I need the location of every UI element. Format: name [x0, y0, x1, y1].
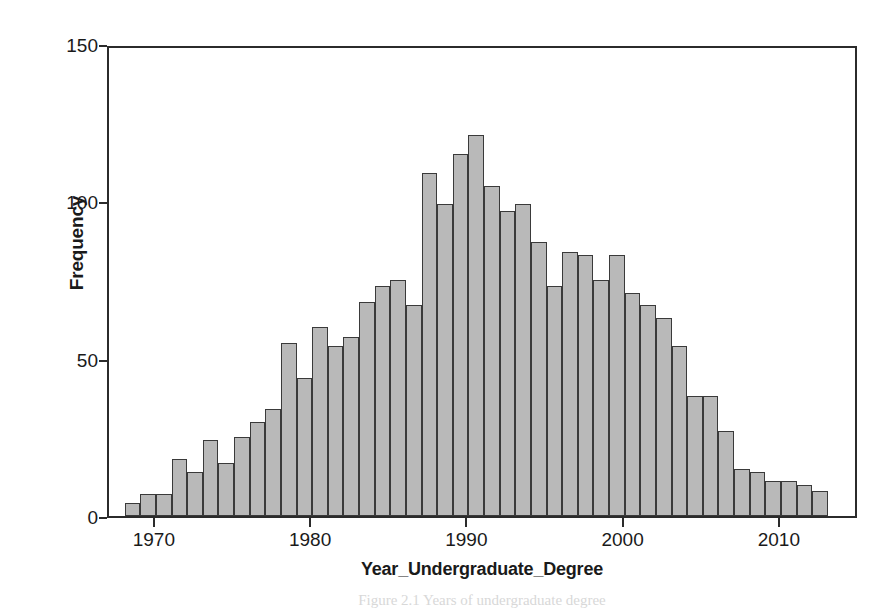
histogram-bar — [297, 378, 313, 516]
histogram-bar — [437, 204, 453, 516]
x-axis-tick-label: 1970 — [109, 530, 199, 549]
x-axis-tick-label: 2000 — [578, 530, 668, 549]
histogram-bar — [250, 422, 266, 516]
histogram-bar — [531, 242, 547, 516]
histogram-bar — [453, 154, 469, 516]
histogram-bar — [625, 293, 641, 516]
y-axis-tick-mark — [99, 517, 107, 519]
figure-caption: Figure 2.1 Years of undergraduate degree — [107, 592, 857, 609]
histogram-bar — [375, 286, 391, 516]
histogram-bar — [812, 491, 828, 516]
histogram-bar — [578, 255, 594, 516]
histogram-bar — [468, 135, 484, 516]
histogram-bar — [265, 409, 281, 516]
histogram-bars — [109, 48, 855, 516]
histogram-bar — [500, 211, 516, 516]
histogram-bar — [125, 503, 141, 516]
y-axis-tick-mark — [99, 202, 107, 204]
histogram-bar — [140, 494, 156, 516]
histogram-bar — [156, 494, 172, 516]
histogram-bar — [672, 346, 688, 516]
x-axis-tick-mark — [778, 518, 780, 527]
y-axis-tick-label: 150 — [46, 36, 98, 55]
x-axis-tick-mark — [153, 518, 155, 527]
x-axis-tick-mark — [465, 518, 467, 527]
histogram-bar — [312, 327, 328, 516]
x-axis-tick-label: 1980 — [265, 530, 355, 549]
histogram-bar — [234, 437, 250, 516]
histogram-bar — [343, 337, 359, 516]
histogram-bar — [562, 252, 578, 516]
histogram-bar — [703, 396, 719, 516]
x-axis-tick-label: 2010 — [734, 530, 824, 549]
histogram-bar — [359, 302, 375, 516]
histogram-bar — [609, 255, 625, 516]
histogram-bar — [687, 396, 703, 516]
histogram-bar — [640, 305, 656, 516]
y-axis-tick-labels: 050100150 — [46, 0, 98, 609]
histogram-bar — [515, 204, 531, 516]
histogram-bar — [734, 469, 750, 516]
histogram-bar — [422, 173, 438, 516]
histogram-bar — [172, 459, 188, 516]
histogram-bar — [218, 463, 234, 516]
histogram-bar — [390, 280, 406, 516]
y-axis-tick-label: 0 — [46, 508, 98, 527]
x-axis-tick-mark — [309, 518, 311, 527]
x-axis-tick-label: 1990 — [421, 530, 511, 549]
histogram-bar — [718, 431, 734, 516]
histogram-bar — [328, 346, 344, 516]
y-axis-tick-mark — [99, 45, 107, 47]
histogram-bar — [781, 481, 797, 516]
histogram-bar — [797, 485, 813, 516]
histogram-bar — [406, 305, 422, 516]
plot-area — [107, 46, 857, 518]
histogram-bar — [484, 186, 500, 516]
histogram-bar — [750, 472, 766, 516]
histogram-bar — [593, 280, 609, 516]
histogram-bar — [187, 472, 203, 516]
histogram-bar — [765, 481, 781, 516]
y-axis-tick-label: 50 — [46, 351, 98, 370]
histogram-bar — [656, 318, 672, 516]
histogram-figure: Frequency 050100150 19701980199020002010… — [0, 0, 884, 609]
histogram-bar — [203, 440, 219, 516]
histogram-bar — [547, 286, 563, 516]
x-axis-tick-mark — [622, 518, 624, 527]
y-axis-tick-mark — [99, 360, 107, 362]
histogram-bar — [281, 343, 297, 516]
x-axis-label: Year_Undergraduate_Degree — [107, 559, 857, 580]
y-axis-tick-label: 100 — [46, 193, 98, 212]
